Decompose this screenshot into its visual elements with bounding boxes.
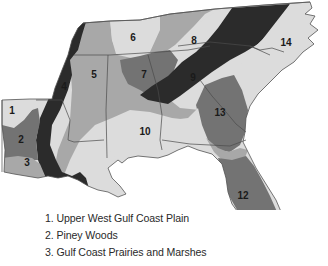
region-label-8: 8 <box>191 35 197 46</box>
legend-item-1: 1. Upper West Gulf Coast Plain <box>45 210 303 227</box>
region-label-5: 5 <box>91 69 97 80</box>
legend-item-3: 3. Gulf Coast Prairies and Marshes <box>45 244 303 261</box>
map-legend: 1. Upper West Gulf Coast Plain 2. Piney … <box>45 210 325 261</box>
region-label-12: 12 <box>237 190 249 201</box>
region-label-13: 13 <box>214 107 226 118</box>
region-label-10: 10 <box>139 126 151 137</box>
region-label-3: 3 <box>24 157 30 168</box>
region-label-9: 9 <box>190 72 196 83</box>
map-regions <box>0 0 328 210</box>
region-label-7: 7 <box>141 69 147 80</box>
region-label-2: 2 <box>18 134 24 145</box>
region-label-14: 14 <box>280 37 292 48</box>
region-label-4: 4 <box>61 81 67 92</box>
region-label-6: 6 <box>130 32 136 43</box>
southeastern-us-ecoregion-map: 1 2 3 4 5 6 7 8 9 10 11 12 13 14 <box>0 0 328 210</box>
legend-item-2: 2. Piney Woods <box>45 227 303 244</box>
region-label-1: 1 <box>9 105 15 116</box>
